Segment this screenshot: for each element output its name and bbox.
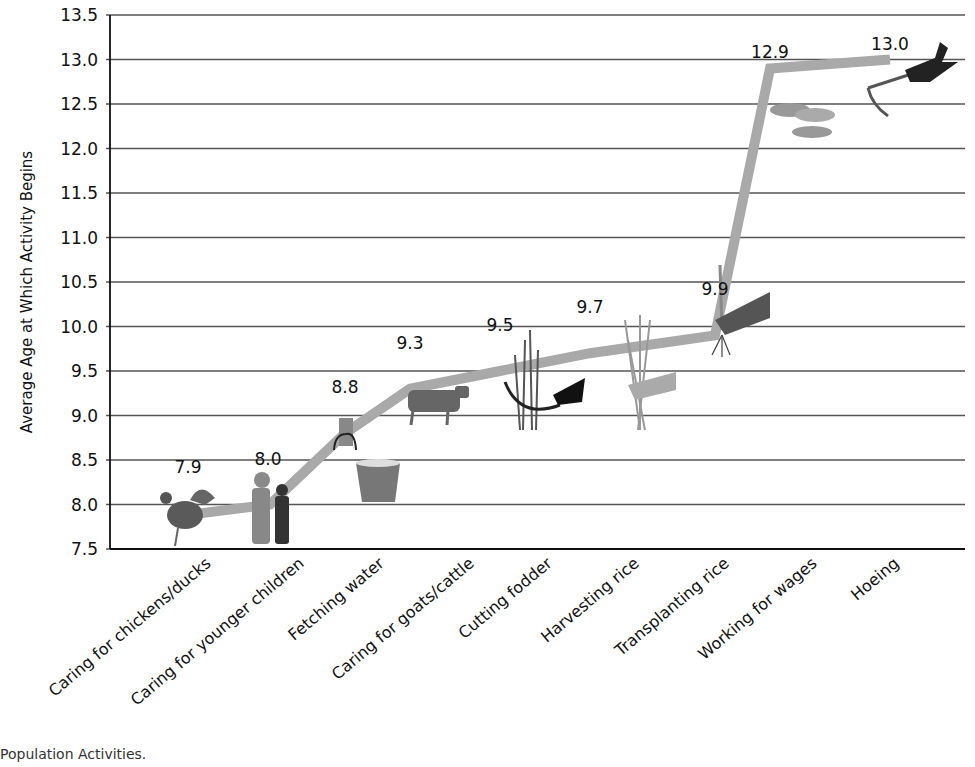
y-tick-label: 8.5 [71, 450, 98, 470]
y-tick-label: 11.5 [60, 183, 98, 203]
y-tick-label: 12.5 [60, 94, 98, 114]
series-line [200, 60, 890, 514]
line-chart: 7.58.08.59.09.510.010.511.011.512.012.51… [0, 0, 975, 767]
data-label: 9.5 [486, 315, 513, 335]
data-label: 12.9 [751, 42, 789, 62]
x-tick-label: Caring for younger children [127, 554, 308, 710]
y-tick-label: 10.5 [60, 272, 98, 292]
y-tick-label: 8.0 [71, 495, 98, 515]
y-tick-label: 7.5 [71, 539, 98, 559]
data-label: 9.3 [396, 333, 423, 353]
data-label: 7.9 [174, 457, 201, 477]
y-tick-label: 13.5 [60, 5, 98, 25]
data-label: 8.0 [254, 449, 281, 469]
y-tick-label: 13.0 [60, 50, 98, 70]
data-label: 9.7 [576, 297, 603, 317]
y-axis-label: Average Age at Which Activity Begins [18, 112, 42, 472]
cow-icon [408, 386, 469, 425]
data-label: 9.9 [701, 279, 728, 299]
y-tick-label: 11.0 [60, 228, 98, 248]
x-tick-label: Caring for goats/cattle [328, 554, 478, 684]
data-label: 8.8 [331, 377, 358, 397]
x-tick-label: Caring for chickens/ducks [45, 554, 215, 701]
y-tick-label: 10.0 [60, 317, 98, 337]
data-label: 13.0 [871, 34, 909, 54]
coins-icon [770, 103, 835, 138]
rice-bundle-hand-icon [625, 315, 676, 430]
y-tick-label: 9.0 [71, 406, 98, 426]
y-tick-label: 12.0 [60, 139, 98, 159]
x-tick-label: Hoeing [847, 554, 902, 605]
y-tick-label: 9.5 [71, 361, 98, 381]
rooster-icon [160, 489, 215, 546]
figure-caption: Population Activities. [0, 746, 146, 762]
